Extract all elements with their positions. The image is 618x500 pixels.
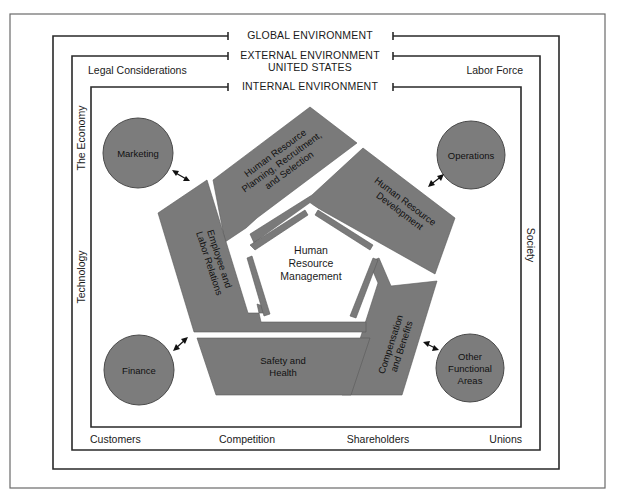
finance-label: Finance (122, 365, 156, 376)
other-functional-areas-circle: Other Functional Areas (436, 334, 504, 402)
marketing-label: Marketing (117, 148, 159, 159)
double-arrow-icon (173, 337, 188, 351)
unions-label: Unions (489, 433, 522, 445)
segment-safety-health: Safety and Health (197, 338, 370, 395)
marketing-circle: Marketing (103, 118, 173, 188)
global-environment-label: GLOBAL ENVIRONMENT (247, 29, 373, 41)
shareholders-label: Shareholders (347, 433, 409, 445)
hrm-environment-diagram: GLOBAL ENVIRONMENT EXTERNAL ENVIRONMENT … (0, 0, 618, 500)
operations-circle: Operations (437, 121, 505, 189)
legal-considerations-label: Legal Considerations (88, 64, 187, 76)
technology-label: Technology (75, 250, 87, 304)
other-label-line3: Areas (458, 375, 483, 386)
center-line2: Resource (289, 257, 334, 269)
center-line3: Management (280, 270, 341, 282)
operations-label: Operations (448, 150, 495, 161)
double-arrow-icon (423, 341, 439, 351)
labor-force-label: Labor Force (466, 64, 523, 76)
united-states-label: UNITED STATES (268, 61, 352, 73)
other-label-line2: Functional (448, 363, 492, 374)
safety-line1: Safety and (260, 355, 305, 366)
safety-line2: Health (269, 367, 296, 378)
customers-label: Customers (90, 433, 141, 445)
internal-environment-label: INTERNAL ENVIRONMENT (242, 80, 378, 92)
competition-label: Competition (219, 433, 275, 445)
center-line1: Human (294, 244, 328, 256)
finance-circle: Finance (104, 335, 174, 405)
the-economy-label: The Economy (75, 105, 87, 171)
other-label-line1: Other (458, 351, 482, 362)
society-label: Society (525, 228, 537, 263)
double-arrow-icon (428, 174, 444, 187)
double-arrow-icon (172, 170, 190, 181)
external-environment-label: EXTERNAL ENVIRONMENT (240, 49, 380, 61)
